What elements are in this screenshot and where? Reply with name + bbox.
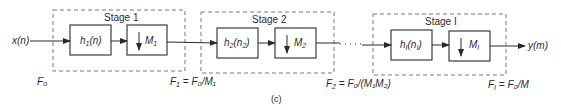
fI-label: FI = F₀/M	[488, 80, 529, 91]
input-label: x(n)	[12, 36, 29, 46]
h1-label: h1(n)	[80, 36, 102, 47]
mI-label: MI	[469, 40, 479, 51]
figure-caption: (c)	[271, 95, 282, 104]
stage1-title: Stage 1	[104, 13, 138, 23]
stageI-title: Stage I	[425, 17, 457, 27]
h2-label: h2(n2)	[224, 38, 250, 49]
output-label: y(m)	[528, 41, 548, 51]
m1-label: M1	[145, 36, 157, 47]
f2-label: F2 = F₀/(M₁M₂)	[326, 79, 391, 90]
f0-label: F₀	[37, 77, 47, 87]
stage2-title: Stage 2	[252, 15, 286, 25]
stage1-to-stage2-arrow	[167, 42, 217, 43]
f1-label: F1 = F₀/M₁	[170, 77, 216, 88]
hI-label: hI(nI)	[400, 40, 422, 51]
m2-label: M2	[294, 38, 306, 49]
